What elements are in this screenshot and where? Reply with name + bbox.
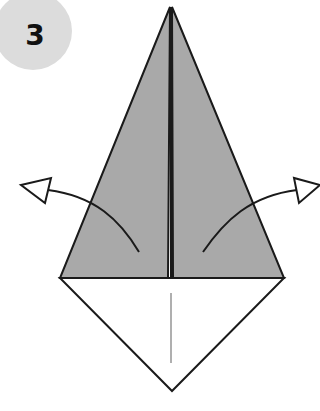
origami-diagram bbox=[0, 0, 320, 411]
left-flap bbox=[60, 7, 170, 278]
kite-lower-paper bbox=[60, 278, 284, 391]
right-flap bbox=[172, 7, 284, 278]
